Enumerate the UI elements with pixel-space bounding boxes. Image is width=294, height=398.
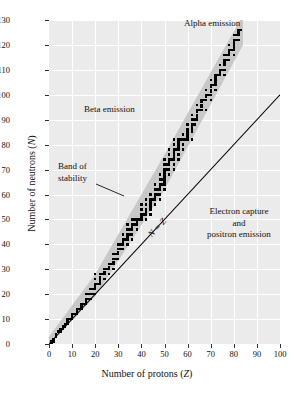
data-point — [237, 31, 239, 33]
y-tick-label: 130 — [0, 16, 10, 25]
y-tick-label: 70 — [0, 166, 10, 175]
y-tick-mark — [45, 20, 49, 21]
y-tick-mark — [45, 294, 49, 295]
data-point — [182, 143, 184, 145]
data-point — [71, 318, 73, 320]
data-point — [214, 76, 216, 78]
data-point — [112, 261, 114, 263]
band-of-stability-line-2: stability — [58, 172, 87, 184]
data-point — [149, 213, 151, 215]
data-point — [136, 228, 138, 230]
data-point — [173, 138, 175, 140]
beta-emission-label: Beta emission — [84, 104, 135, 115]
x-tick-mark — [280, 344, 281, 348]
y-tick-label: 10 — [0, 315, 10, 324]
data-point — [80, 305, 82, 307]
data-point — [182, 133, 184, 135]
data-point — [177, 146, 179, 148]
data-point — [223, 64, 225, 66]
data-point — [145, 208, 147, 210]
data-point — [136, 221, 138, 223]
data-point — [228, 59, 230, 61]
data-point — [163, 188, 165, 190]
data-point — [173, 158, 175, 160]
data-point — [66, 320, 68, 322]
data-point — [163, 158, 165, 160]
data-point — [71, 315, 73, 317]
data-point — [214, 89, 216, 91]
data-point — [112, 263, 114, 265]
x-tick-label: 100 — [265, 350, 294, 359]
x-tick-mark — [188, 344, 189, 348]
y-tick-label: 30 — [0, 265, 10, 274]
data-point — [173, 153, 175, 155]
data-point — [136, 223, 138, 225]
data-point — [103, 273, 105, 275]
data-point — [196, 111, 198, 113]
data-point — [205, 96, 207, 98]
x-tick-mark — [257, 344, 258, 348]
data-point — [94, 273, 96, 275]
data-point — [186, 133, 188, 135]
data-point — [196, 104, 198, 106]
data-point — [177, 143, 179, 145]
data-point — [163, 173, 165, 175]
data-point — [149, 206, 151, 208]
data-point — [228, 51, 230, 53]
y-tick-mark — [45, 269, 49, 270]
data-point — [131, 238, 133, 240]
data-point — [233, 44, 235, 46]
data-point — [145, 211, 147, 213]
data-point — [193, 123, 195, 125]
x-tick-mark — [141, 344, 142, 348]
electron-capture-line-1: Electron capture — [190, 206, 288, 218]
data-point — [237, 34, 239, 36]
data-point — [131, 226, 133, 228]
data-point — [99, 278, 101, 280]
data-point — [237, 39, 239, 41]
data-point — [154, 203, 156, 205]
data-point — [200, 101, 202, 103]
data-point — [122, 241, 124, 243]
data-point — [163, 171, 165, 173]
data-point — [76, 313, 78, 315]
data-point — [168, 153, 170, 155]
y-axis-title-close: ) — [26, 135, 37, 138]
y-tick-mark — [45, 195, 49, 196]
data-point — [112, 268, 114, 270]
x-axis-title-close: ) — [189, 368, 192, 379]
data-point — [186, 131, 188, 133]
y-tick-mark — [45, 95, 49, 96]
data-point — [168, 148, 170, 150]
data-point — [210, 99, 212, 101]
data-point — [99, 276, 101, 278]
data-point — [168, 173, 170, 175]
data-point — [159, 186, 161, 188]
data-point — [76, 310, 78, 312]
data-point — [173, 143, 175, 145]
y-tick-label: 40 — [0, 240, 10, 249]
data-point — [228, 54, 230, 56]
data-point — [52, 340, 54, 342]
data-point — [66, 323, 68, 325]
y-tick-mark — [45, 219, 49, 220]
data-point — [168, 163, 170, 165]
data-point — [103, 271, 105, 273]
data-point — [126, 223, 128, 225]
data-point — [64, 325, 66, 327]
y-tick-label: 60 — [0, 191, 10, 200]
data-point — [210, 86, 212, 88]
data-point — [177, 141, 179, 143]
data-point — [177, 158, 179, 160]
data-point — [59, 330, 61, 332]
data-point — [173, 151, 175, 153]
data-point — [122, 248, 124, 250]
data-point — [186, 136, 188, 138]
data-point — [122, 243, 124, 245]
data-point — [85, 303, 87, 305]
data-point — [131, 228, 133, 230]
data-point — [108, 268, 110, 270]
data-point — [219, 74, 221, 76]
x-tick-mark — [118, 344, 119, 348]
x-tick-mark — [165, 344, 166, 348]
